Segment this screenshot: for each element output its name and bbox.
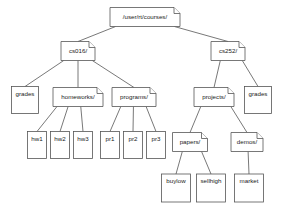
tree-edge [214,61,220,88]
node-label: pr1 [106,135,116,142]
tree-node-market[interactable]: market [235,174,264,202]
tree-node-hw3[interactable]: hw3 [74,132,93,159]
tree-node-grades2[interactable]: grades [245,87,272,114]
tree-node-cs252[interactable]: cs252/ [211,42,245,61]
tree-node-hw2[interactable]: hw2 [51,132,70,159]
directory-tree-diagram: /user/rt/courses/cs016/cs252/gradeshomew… [0,0,281,211]
node-label: papers/ [180,138,201,145]
node-label: buylow [166,177,186,184]
node-label: demos/ [237,138,258,145]
tree-edge [202,152,211,175]
node-label: cs016/ [69,47,88,54]
node-label: sellhigh [201,177,223,184]
tree-edge [37,107,57,132]
tree-edge [174,27,228,42]
folded-corner-icon [202,133,208,139]
tree-node-hw1[interactable]: hw1 [28,132,47,159]
tree-node-pr3[interactable]: pr3 [147,132,166,159]
tree-node-programs[interactable]: programs/ [112,88,156,107]
node-label: projects/ [202,93,226,100]
tree-node-buylow[interactable]: buylow [162,174,191,202]
node-label: market [240,177,259,184]
folded-corner-icon [257,133,263,139]
node-label: pr3 [152,135,162,142]
node-label: hw3 [77,135,89,142]
tree-edge [190,107,201,133]
tree-edge [242,61,258,87]
tree-edge [248,152,249,175]
tree-node-papers[interactable]: papers/ [173,133,208,152]
tree-node-root[interactable]: /user/rt/courses/ [110,8,180,27]
tree-node-cs016[interactable]: cs016/ [61,42,95,61]
tree-node-demos[interactable]: demos/ [231,133,263,152]
tree-node-homeworks[interactable]: homeworks/ [53,88,103,107]
tree-edge [81,107,83,132]
tree-node-grades1[interactable]: grades [12,87,39,114]
tree-edge [92,61,134,88]
node-label: cs252/ [219,47,238,54]
tree-node-sellhigh[interactable]: sellhigh [197,174,226,202]
tree-edge [78,27,116,42]
tree-edge [25,61,64,87]
tree-edge [60,107,68,132]
tree-node-pr2[interactable]: pr2 [124,132,143,159]
folded-corner-icon [97,88,103,94]
node-label: hw1 [31,135,43,142]
tree-node-pr1[interactable]: pr1 [101,132,120,159]
node-layer: /user/rt/courses/cs016/cs252/gradeshomew… [12,8,272,203]
node-label: /user/rt/courses/ [123,13,168,20]
tree-node-projects[interactable]: projects/ [194,88,234,107]
node-label: grades [16,90,35,97]
node-label: programs/ [120,93,148,100]
node-label: hw2 [54,135,66,142]
tree-edge [146,107,156,132]
tree-edge [110,107,121,132]
node-label: homeworks/ [61,93,95,100]
node-label: pr2 [129,135,139,142]
tree-edge [176,152,182,175]
node-label: grades [249,90,268,97]
folded-corner-icon [89,42,95,48]
